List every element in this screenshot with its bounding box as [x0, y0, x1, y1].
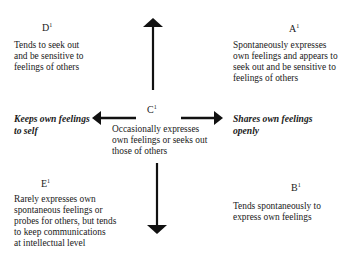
quadrant-e-text: Rarely expresses own spontaneous feeling… [14, 194, 116, 249]
arrow-right-icon [181, 111, 223, 125]
quadrant-e-mark: 1 [47, 178, 50, 184]
quadrant-d-label: D1 [42, 22, 52, 34]
quadrant-c-text: Occasionally expresses own feelings or s… [112, 124, 207, 157]
quadrant-d-mark: 1 [49, 22, 52, 28]
quadrant-c-letter: C [147, 104, 154, 115]
quadrant-b-text: Tends spontaneously to express own feeli… [233, 201, 321, 223]
quadrant-b-mark: 1 [298, 182, 301, 188]
quadrant-c-mark: 1 [154, 104, 157, 110]
arrow-down-icon [147, 163, 167, 234]
quadrant-a-label: A1 [289, 23, 299, 35]
arrow-up-icon [143, 18, 163, 90]
quadrant-a-text: Spontaneously expresses own feelings and… [233, 40, 338, 84]
axis-left-label: Keeps own feelings to self [14, 113, 90, 137]
quadrant-e-label: E1 [41, 178, 50, 190]
quadrant-a-mark: 1 [296, 23, 299, 29]
quadrant-c-label: C1 [147, 104, 157, 116]
quadrant-b-label: B1 [291, 182, 301, 194]
quadrant-b-letter: B [291, 182, 298, 193]
quadrant-d-text: Tends to seek out and be sensitive to fe… [14, 40, 84, 73]
arrow-left-icon [92, 111, 136, 125]
axis-right-label: Shares own feelings openly [233, 113, 312, 137]
